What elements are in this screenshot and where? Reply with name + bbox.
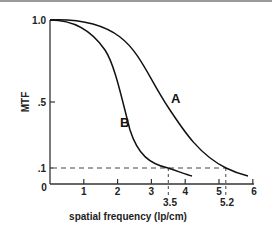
x-tick-label-6: 6 — [251, 186, 257, 197]
y-tick-label-1: 1.0 — [32, 15, 46, 26]
x-tick-label-1: 1 — [81, 186, 87, 197]
x-tick-label-3: 3 — [149, 186, 155, 197]
y-axis-title: MTF — [20, 92, 31, 113]
curve-a — [50, 20, 248, 176]
x-axis-title: spatial frequency (lp/cm) — [69, 211, 187, 222]
mtf-chart: 1.0 .5 .1 0 1 2 3 4 5 6 3.5 5.2 MTF spat… — [0, 0, 272, 232]
curve-b-label: B — [120, 115, 129, 130]
x-tick-label-5: 5 — [216, 186, 222, 197]
origin-label: 0 — [41, 182, 47, 193]
y-tick-label-01: .1 — [38, 163, 47, 174]
curve-a-label: A — [171, 91, 181, 106]
x-tick-label-2: 2 — [115, 186, 121, 197]
y-tick-label-05: .5 — [38, 97, 47, 108]
cutoff-a-label: 5.2 — [220, 197, 234, 208]
x-tick-label-4: 4 — [182, 186, 188, 197]
cutoff-b-label: 3.5 — [163, 197, 177, 208]
